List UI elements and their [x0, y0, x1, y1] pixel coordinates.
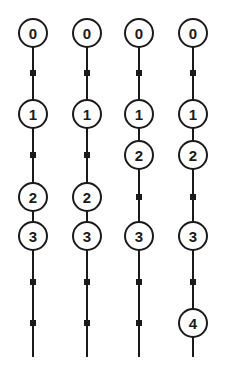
marker-square	[30, 279, 36, 285]
node: 3	[179, 222, 207, 250]
marker-square	[136, 70, 142, 76]
node-label: 1	[189, 106, 197, 123]
node-label: 3	[83, 228, 91, 245]
node-label: 2	[83, 189, 91, 206]
node-label: 0	[29, 25, 37, 42]
node: 2	[73, 183, 101, 211]
node-label: 1	[29, 106, 37, 123]
marker-square	[84, 279, 90, 285]
node: 0	[179, 19, 207, 47]
marker-square	[84, 70, 90, 76]
node: 0	[73, 19, 101, 47]
node-label: 0	[83, 25, 91, 42]
node: 1	[73, 100, 101, 128]
marker-square	[136, 279, 142, 285]
node-label: 0	[135, 25, 143, 42]
node-label: 3	[135, 228, 143, 245]
node-label: 2	[29, 189, 37, 206]
timeline-column-0: 0123	[19, 19, 47, 357]
node-label: 0	[189, 25, 197, 42]
node: 3	[73, 222, 101, 250]
node-label: 2	[189, 147, 197, 164]
marker-square	[84, 152, 90, 158]
node: 0	[19, 19, 47, 47]
marker-square	[136, 320, 142, 326]
marker-square	[136, 194, 142, 200]
node-label: 3	[189, 228, 197, 245]
timeline-diagram: 01230123012301234	[0, 0, 232, 375]
marker-square	[30, 152, 36, 158]
node-label: 3	[29, 228, 37, 245]
node-label: 2	[135, 147, 143, 164]
marker-square	[30, 320, 36, 326]
node: 1	[179, 100, 207, 128]
timeline-column-3: 01234	[179, 19, 207, 357]
marker-square	[190, 194, 196, 200]
node: 1	[19, 100, 47, 128]
timeline-column-2: 0123	[125, 19, 153, 357]
node: 4	[179, 309, 207, 337]
marker-square	[190, 279, 196, 285]
node: 3	[19, 222, 47, 250]
node: 1	[125, 100, 153, 128]
timeline-column-1: 0123	[73, 19, 101, 357]
node-label: 1	[135, 106, 143, 123]
node-label: 1	[83, 106, 91, 123]
node: 2	[19, 183, 47, 211]
node-label: 4	[189, 315, 198, 332]
marker-square	[84, 320, 90, 326]
node: 2	[125, 141, 153, 169]
node: 2	[179, 141, 207, 169]
node: 0	[125, 19, 153, 47]
marker-square	[30, 70, 36, 76]
marker-square	[190, 70, 196, 76]
node: 3	[125, 222, 153, 250]
